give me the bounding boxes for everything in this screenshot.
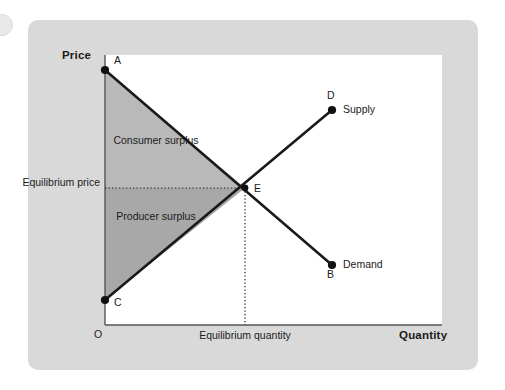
point-c-marker: [101, 296, 109, 304]
equilibrium-quantity-label: Equilibrium quantity: [190, 329, 300, 341]
consumer-surplus-label: Consumer surplus: [113, 134, 199, 146]
point-b-label: B: [327, 268, 334, 280]
point-d-marker: [328, 106, 336, 114]
supply-curve-label: Supply: [343, 103, 375, 115]
demand-curve-label: Demand: [343, 258, 383, 270]
origin-label: O: [94, 328, 102, 340]
point-d-label: D: [327, 89, 335, 101]
x-axis-label: Quantity: [399, 329, 447, 343]
equilibrium-price-label: Equilibrium price: [10, 176, 100, 188]
point-c-label: C: [114, 296, 122, 308]
point-a-label: A: [114, 54, 121, 66]
point-e-label: E: [254, 182, 261, 194]
point-a-marker: [101, 66, 109, 74]
y-axis-label: Price: [62, 49, 91, 63]
producer-surplus-label: Producer surplus: [113, 210, 199, 222]
point-e-marker: [242, 185, 249, 192]
